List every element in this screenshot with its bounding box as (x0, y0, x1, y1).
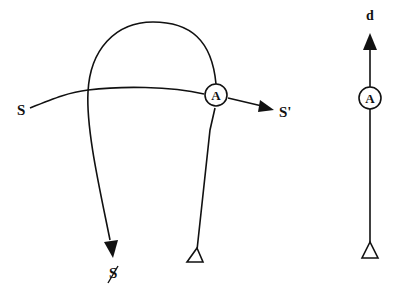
root-triangle-left (187, 248, 203, 262)
diagram-canvas: A S S' S A d (0, 0, 404, 299)
arrowhead-up (363, 33, 377, 50)
label-d: d (366, 8, 374, 23)
s-to-a-edge (30, 87, 204, 108)
node-a-right-label: A (365, 91, 375, 106)
arrowhead-down (104, 240, 118, 258)
label-s-prime: S' (279, 104, 292, 120)
node-a-left-label: A (211, 88, 221, 103)
arch-loop-edge (88, 22, 216, 250)
arrowhead-right (258, 100, 274, 112)
root-triangle-right (362, 242, 378, 258)
a-to-s-prime-edge (228, 98, 262, 106)
label-s: S (17, 102, 25, 118)
